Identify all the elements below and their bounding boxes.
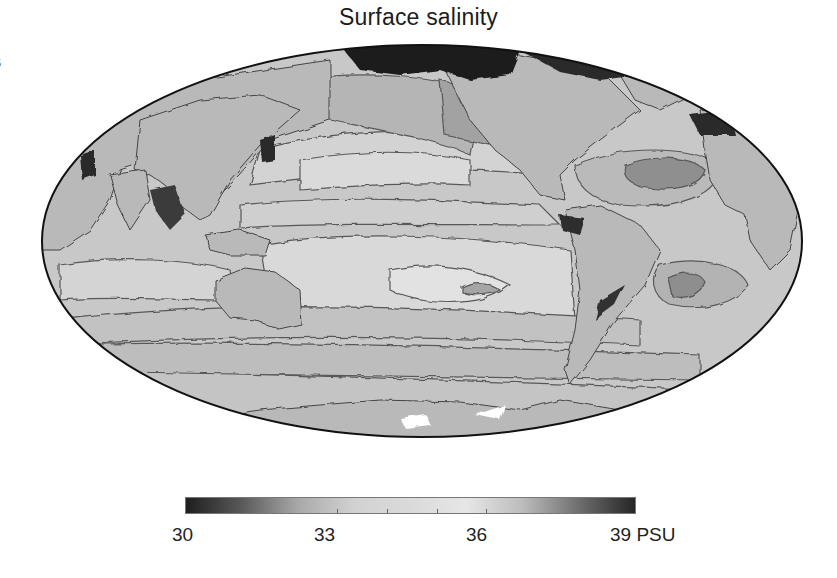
colorbar-tick xyxy=(387,509,388,513)
colorbar-tick xyxy=(337,509,338,513)
colorbar-label-39-psu: 39 PSU xyxy=(610,524,675,546)
colorbar xyxy=(185,497,636,514)
colorbar-tick xyxy=(437,509,438,513)
colorbar-label-30: 30 xyxy=(172,524,193,546)
world-salinity-map xyxy=(0,0,837,480)
colorbar-label-33: 33 xyxy=(314,524,335,546)
colorbar-label-36: 36 xyxy=(466,524,487,546)
colorbar-tick xyxy=(486,509,487,513)
